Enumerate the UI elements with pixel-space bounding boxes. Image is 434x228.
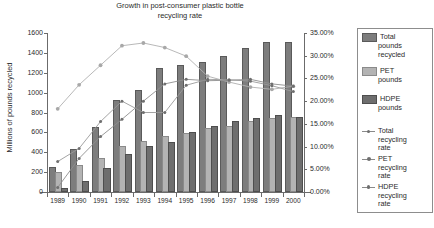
line-point — [120, 100, 123, 103]
y-tick-label-left: 1400 — [13, 49, 43, 56]
line-point — [228, 79, 231, 82]
line-point — [99, 63, 103, 67]
legend-swatch-bar — [362, 33, 377, 42]
y-tick-label-left: 800 — [13, 109, 43, 116]
lines-layer — [47, 33, 304, 192]
y-tick-right — [304, 101, 307, 102]
y-tick-right — [304, 78, 307, 79]
line-point — [206, 79, 209, 82]
legend-swatch-bar — [362, 95, 377, 104]
line-point — [120, 44, 124, 48]
legend-label-line2: pounds — [362, 104, 402, 113]
line-point — [270, 82, 273, 85]
y-tick-label-right: 20.00% — [310, 97, 334, 104]
line-point — [99, 135, 102, 138]
y-tick-label-left: 600 — [13, 128, 43, 135]
line-point — [163, 111, 166, 114]
line-point — [185, 84, 188, 87]
y-tick-label-right: 30.00% — [310, 52, 334, 59]
legend-item-4[interactable]: PETrecyclingrate — [362, 155, 407, 181]
line-point — [56, 107, 60, 111]
line-point — [120, 118, 123, 121]
legend-item-3[interactable]: Totalrecyclingrate — [362, 127, 407, 153]
chart-figure: Growth in post-consumer plastic bottle r… — [0, 0, 434, 228]
chart-title-line-2: recycling rate — [158, 11, 203, 20]
y-tick-label-left: 1600 — [13, 29, 43, 36]
line-point — [142, 111, 145, 114]
line-point — [163, 46, 167, 50]
legend-label-line3: rate — [362, 200, 407, 209]
line-series-1 — [56, 41, 295, 111]
legend-item-1[interactable]: PETpounds — [362, 67, 402, 85]
line-point — [141, 41, 145, 45]
y-tick-right — [304, 147, 307, 148]
legend-swatch-bar — [362, 67, 377, 76]
y-tick-label-right: 10.00% — [310, 143, 334, 150]
line-point — [99, 120, 102, 123]
line-point — [56, 160, 59, 163]
line-point — [249, 85, 253, 89]
line-point — [292, 85, 295, 88]
line-point — [292, 90, 295, 93]
y-tick-label-right: 0.00% — [310, 188, 330, 195]
legend-item-2[interactable]: HDPEpounds — [362, 95, 402, 113]
legend-label-line2: pounds — [362, 76, 402, 85]
y-tick-label-left: 1200 — [13, 69, 43, 76]
y-tick-label-left: 1000 — [13, 89, 43, 96]
y-tick-label-left: 200 — [13, 168, 43, 175]
y-tick-label-right: 15.00% — [310, 120, 334, 127]
legend-item-0[interactable]: Totalpoundsrecycled — [362, 33, 405, 59]
legend-label-line3: rate — [362, 144, 407, 153]
line-point — [78, 157, 81, 160]
line-series-2 — [56, 78, 295, 189]
chart-title-line-1: Growth in post-consumer plastic bottle — [116, 1, 244, 10]
chart-legend: TotalpoundsrecycledPETpoundsHDPEpoundsTo… — [357, 28, 433, 213]
y-tick-label-right: 35.00% — [310, 29, 334, 36]
line-point — [163, 82, 166, 85]
chart-title: Growth in post-consumer plastic bottle r… — [60, 1, 300, 20]
legend-label-line3: recycled — [362, 51, 405, 60]
line-point — [78, 147, 81, 150]
legend-swatch-line — [362, 128, 375, 135]
line-point — [185, 78, 188, 81]
line-point — [184, 54, 188, 58]
y-tick-right — [304, 56, 307, 57]
legend-swatch-line — [362, 184, 375, 191]
y-tick-label-right: 5.00% — [310, 165, 330, 172]
legend-label-line3: rate — [362, 172, 407, 181]
y-tick-right — [304, 33, 307, 34]
line-point — [56, 186, 59, 189]
line-point — [249, 78, 252, 81]
y-tick-label-left: 400 — [13, 148, 43, 155]
line-point — [206, 74, 210, 78]
legend-item-5[interactable]: HDPErecyclingrate — [362, 183, 407, 209]
line-series-0 — [56, 78, 295, 163]
line-point — [77, 83, 81, 87]
y-tick-right — [304, 169, 307, 170]
y-tick-label-right: 25.00% — [310, 74, 334, 81]
line-point — [142, 100, 145, 103]
line-point — [270, 87, 274, 91]
y-tick-label-left: 0 — [13, 188, 43, 195]
x-tick-label: 2000 — [280, 197, 306, 204]
legend-swatch-line — [362, 156, 375, 163]
y-tick-right — [304, 124, 307, 125]
